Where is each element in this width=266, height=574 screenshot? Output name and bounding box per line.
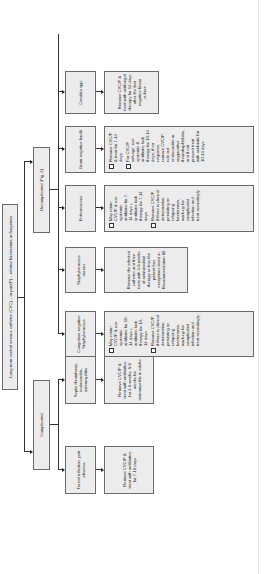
root-box: Long-term central venous catheter (CVC) … <box>2 204 18 390</box>
connector <box>50 424 58 425</box>
connector <box>58 34 59 334</box>
tunnel-infection-label: Tunnel infection, port abscess <box>76 449 86 491</box>
checkbox-bullet-icon <box>109 164 114 169</box>
gram-negative-label: Gram-negative bacilli <box>78 130 83 169</box>
septic-thrombosis-treatment: Remove CVC/P & treat with antibiotics fo… <box>104 356 154 404</box>
checkbox-bullet-icon <box>109 223 114 228</box>
septic-thrombosis-label: Septic thrombosis, endocarditis, osteomy… <box>73 359 88 401</box>
checkbox-bullet-icon <box>151 348 156 353</box>
septic-thrombosis-box: Septic thrombosis, endocarditis, osteomy… <box>65 356 96 404</box>
uncomplicated-label: Uncomplicated (Fig. 2) <box>39 169 44 211</box>
enterococcus-box: Enterococcus <box>65 185 96 232</box>
treatment-text: Remove CVC/P if there is clinical deteri… <box>150 315 200 346</box>
treatment-text: Remove CVC/P & treat for 7-14 days <box>108 130 123 162</box>
root-label: Long-term central venous catheter (CVC) … <box>8 216 13 378</box>
list-item: Remove CVC/P if there is clinical deteri… <box>150 189 200 228</box>
cons-treatment: May retain CVC/P & use systemic antibiot… <box>104 311 254 357</box>
candida-box: Candida spp. <box>65 71 96 114</box>
gram-negative-treatment: Remove CVC/P & treat for 7-14 days For C… <box>104 126 254 173</box>
checkbox-bullet-icon <box>126 164 131 169</box>
connector <box>58 380 59 470</box>
list-item: For CVC/P salvage, use systemic & antibi… <box>125 130 205 169</box>
list-item: Remove CVC/P & treat for 7-14 days <box>108 130 123 169</box>
connector <box>24 162 25 452</box>
enterococcus-label: Enterococcus <box>78 196 83 221</box>
complicated-label: Complicated <box>39 413 44 436</box>
treatment-text: Remove the infected catheter and then tr… <box>126 250 166 290</box>
list-item: May retain CVC/P & use systemic antibiot… <box>108 315 148 353</box>
gram-negative-box: Gram-negative bacilli <box>65 126 96 173</box>
checkbox-bullet-icon <box>151 223 156 228</box>
cons-box: Coagulase-negative Staphylococcus <box>65 311 96 357</box>
enterococcus-treatment: May retain CVC/P & use systemic antibiot… <box>104 185 254 232</box>
cons-label: Coagulase-negative Staphylococcus <box>76 314 86 354</box>
candida-treatment: Remove CVC/P & treat with antifungal the… <box>104 71 159 114</box>
checkbox-bullet-icon <box>109 348 114 353</box>
complicated-box: Complicated <box>33 380 50 470</box>
treatment-text: Remove CVC/P if there is clinical deteri… <box>150 189 200 221</box>
treatment-text: Remove CVC/P & treat with antifungal the… <box>117 74 147 111</box>
s-aureus-box: Staphylococcus aureus <box>65 247 96 293</box>
s-aureus-treatment: Remove the infected catheter and then tr… <box>104 247 188 293</box>
candida-label: Candida spp. <box>78 80 83 105</box>
tunnel-infection-box: Tunnel infection, port abscess <box>65 446 96 494</box>
treatment-text: Remove CVC/P & treat with antibiotics fo… <box>117 359 142 401</box>
treatment-text: May retain CVC/P & use systemic antibiot… <box>108 189 148 221</box>
s-aureus-label: Staphylococcus aureus <box>76 250 86 290</box>
treatment-text: Remove CVC/P & treat with antibiotics fo… <box>122 449 137 491</box>
flowchart: Long-term central venous catheter (CVC) … <box>0 0 266 574</box>
treatment-text: May retain CVC/P & use systemic antibiot… <box>108 315 148 346</box>
connector <box>50 189 58 190</box>
list-item: May retain CVC/P & use systemic antibiot… <box>108 189 148 228</box>
tunnel-infection-treatment: Remove CVC/P & treat with antibiotics fo… <box>104 446 154 494</box>
list-item: Remove CVC/P if there is clinical deteri… <box>150 315 200 353</box>
uncomplicated-box: Uncomplicated (Fig. 2) <box>33 147 50 233</box>
treatment-text: For CVC/P salvage, use systemic & antibi… <box>125 130 205 162</box>
